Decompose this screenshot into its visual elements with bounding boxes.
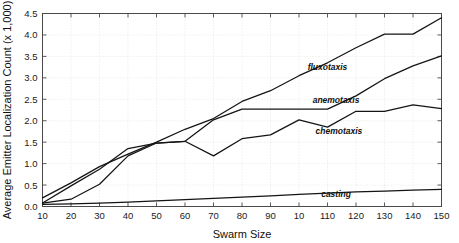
y-tick-label: 3.0 [24, 72, 37, 83]
x-tick-label: 90 [265, 210, 276, 221]
series-label-casting: casting [321, 189, 352, 199]
y-tick-label: 3.5 [24, 51, 37, 62]
x-tick-label: 30 [94, 210, 105, 221]
x-tick-label: 10 [294, 210, 305, 221]
x-tick-label: 10 [37, 210, 48, 221]
series-label-anemotaxis: anemotaxis [313, 95, 360, 105]
series-annotations: fluxotaxisanemotaxischemotaxiscasting [308, 62, 363, 199]
x-tick-label: 70 [208, 210, 219, 221]
y-axis-title: Average Emitter Localization Count (x 1,… [1, 1, 13, 220]
x-axis-title: Swarm Size [213, 228, 272, 240]
x-tick-label: 80 [237, 210, 248, 221]
series-line-casting [43, 189, 442, 204]
x-tick-label: 20 [66, 210, 77, 221]
y-tick-label: 2.5 [24, 94, 37, 105]
x-tick-label: 110 [320, 210, 335, 221]
y-tick-label: 4.5 [24, 8, 37, 19]
series-line-fluxotaxis [43, 18, 442, 198]
x-tick-labels: 10203040506070809010110120130140150 [37, 210, 449, 221]
x-tick-label: 120 [348, 210, 364, 221]
chart-figure: 10203040506070809010110120130140150 0.00… [0, 0, 459, 243]
y-tick-label: 1.5 [24, 137, 37, 148]
y-tick-label: 0.5 [24, 180, 37, 191]
series-label-fluxotaxis: fluxotaxis [308, 62, 348, 72]
x-tick-label: 50 [151, 210, 162, 221]
x-tick-label: 140 [405, 210, 421, 221]
series-label-chemotaxis: chemotaxis [316, 126, 363, 136]
y-tick-label: 4.0 [24, 29, 37, 40]
x-tick-label: 60 [180, 210, 191, 221]
x-tick-label: 130 [377, 210, 393, 221]
y-tick-label: 1.0 [24, 158, 37, 169]
line-chart-canvas: 10203040506070809010110120130140150 0.00… [0, 0, 459, 243]
y-tick-label: 0.0 [24, 201, 37, 212]
x-tick-label: 40 [123, 210, 134, 221]
y-tick-labels: 0.00.51.01.52.02.53.03.54.04.5 [24, 8, 37, 212]
grid-lines [43, 14, 442, 207]
x-tick-label: 150 [434, 210, 450, 221]
y-tick-label: 2.0 [24, 115, 37, 126]
